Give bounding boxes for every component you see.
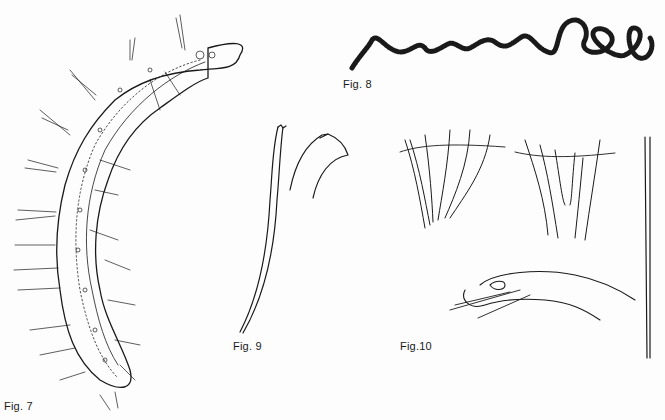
fig7-label: Fig. 7 xyxy=(4,400,33,412)
fig10-label: Fig.10 xyxy=(400,340,432,352)
fig8-label: Fig. 8 xyxy=(343,78,372,90)
plate-drawing xyxy=(0,0,665,420)
fig8-coiled-worm-illustration xyxy=(352,20,652,68)
fig7-worm-illustration xyxy=(14,15,243,410)
fig9-chaetae-illustration xyxy=(240,125,348,333)
fig9-label: Fig. 9 xyxy=(233,340,262,352)
figure-plate: Fig. 7 Fig. 8 Fig. 9 Fig.10 xyxy=(0,0,665,420)
fig10-chaetae-bundles-illustration xyxy=(400,130,650,358)
